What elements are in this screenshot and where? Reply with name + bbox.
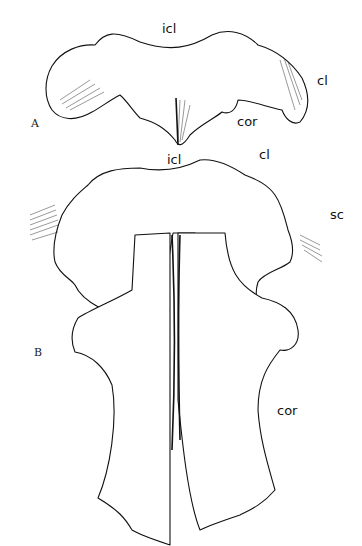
annotation-b-sc: sc — [330, 208, 344, 221]
shoulder-girdle-illustration — [0, 0, 362, 546]
annotation-a-cl: cl — [317, 74, 328, 87]
annotation-b-cl: cl — [259, 148, 270, 161]
bone-drawing — [0, 0, 362, 546]
annotation-a-icl: icl — [162, 22, 176, 35]
annotation-b-icl: icl — [167, 153, 181, 166]
panel-label-a: A — [31, 118, 39, 129]
annotation-b-cor: cor — [277, 404, 297, 417]
annotation-a-cor: cor — [237, 115, 257, 128]
panel-b-drawing — [30, 160, 322, 545]
panel-label-b: B — [34, 347, 42, 358]
panel-a-drawing — [46, 32, 308, 145]
